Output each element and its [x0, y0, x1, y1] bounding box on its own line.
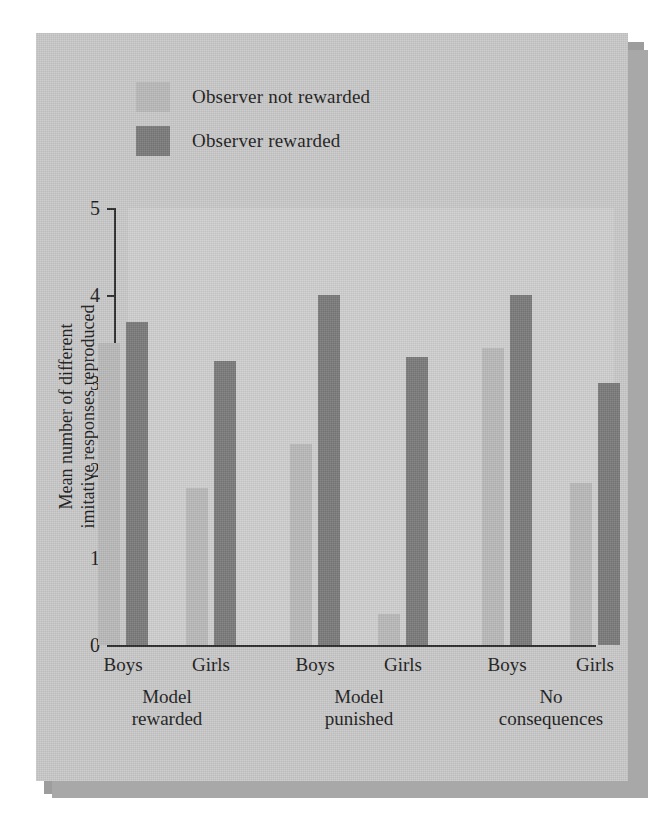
- x-group-label-1: Modelrewarded: [132, 686, 203, 730]
- x-group-label-line2: consequences: [499, 708, 603, 729]
- x-group-label-2: Modelpunished: [325, 686, 394, 730]
- x-axis-line: [114, 645, 596, 647]
- x-tick-label-boys-group1: Boys: [103, 654, 142, 676]
- y-tick-label: 0: [74, 634, 100, 657]
- bar-observer-rewarded-boys-group2: [318, 295, 340, 645]
- bar-observer-rewarded-girls-group2: [406, 357, 428, 645]
- x-tick-label-girls-group1: Girls: [192, 654, 230, 676]
- y-tick-mark: [107, 645, 114, 647]
- y-tick-mark: [107, 208, 114, 210]
- bar-chart: 012345Mean number of differentimitative …: [36, 33, 628, 781]
- figure-root: Observer not rewarded Observer rewarded …: [0, 0, 665, 823]
- x-group-label-3: Noconsequences: [499, 686, 603, 730]
- x-group-label-line2: punished: [325, 708, 394, 729]
- x-group-label-line2: rewarded: [132, 708, 203, 729]
- x-tick-label-boys-group2: Boys: [295, 654, 334, 676]
- chart-panel: Observer not rewarded Observer rewarded …: [36, 33, 628, 781]
- x-tick-label-boys-group3: Boys: [487, 654, 526, 676]
- y-axis-title-line2: imitative responses reproduced: [78, 305, 98, 529]
- bar-observer-not-rewarded-girls-group3: [570, 483, 592, 645]
- bar-observer-not-rewarded-girls-group2: [378, 614, 400, 645]
- y-axis-title: Mean number of differentimitative respon…: [56, 198, 100, 635]
- bar-observer-rewarded-boys-group1: [126, 322, 148, 645]
- bar-observer-rewarded-boys-group3: [510, 295, 532, 645]
- x-group-label-line1: Model: [334, 686, 384, 707]
- bar-observer-not-rewarded-boys-group3: [482, 348, 504, 645]
- bar-observer-not-rewarded-boys-group2: [290, 444, 312, 645]
- y-axis-title-line1: Mean number of different: [56, 323, 76, 509]
- bar-observer-not-rewarded-girls-group1: [186, 488, 208, 645]
- x-tick-label-girls-group3: Girls: [576, 654, 614, 676]
- y-tick-mark: [107, 295, 114, 297]
- x-group-label-line1: Model: [142, 686, 192, 707]
- bar-observer-rewarded-girls-group3: [598, 383, 620, 645]
- bar-observer-not-rewarded-boys-group1: [98, 343, 120, 645]
- x-group-label-line1: No: [539, 686, 562, 707]
- x-tick-label-girls-group2: Girls: [384, 654, 422, 676]
- bar-observer-rewarded-girls-group1: [214, 361, 236, 645]
